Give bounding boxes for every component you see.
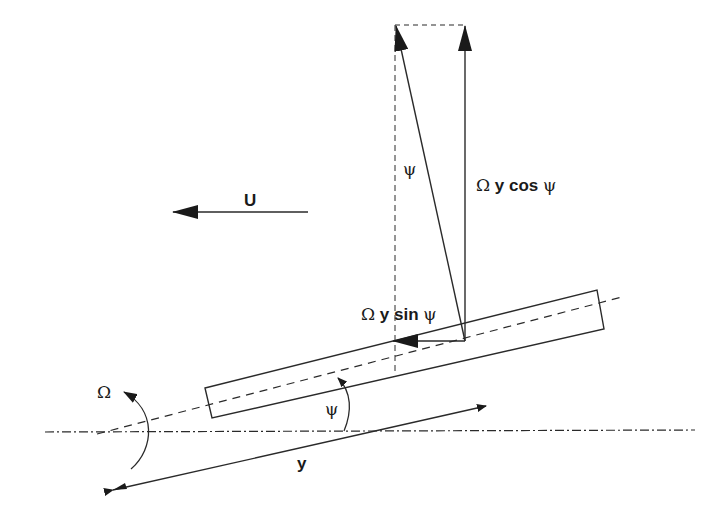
sin-component-label: Ω y sin ψ	[361, 304, 437, 324]
omega-rotation-arc	[124, 392, 149, 469]
psi-blade-label: ψ	[325, 399, 338, 419]
psi-angle-arc	[338, 378, 349, 431]
sin-text: y sin	[375, 305, 423, 324]
cos-component-label: Ω y cos ψ	[476, 175, 556, 195]
psi-vector-label: ψ	[403, 159, 416, 179]
omega-symbol: Ω	[361, 304, 375, 324]
psi-symbol: ψ	[543, 175, 556, 195]
radial-arrow	[113, 406, 486, 490]
psi-symbol: ψ	[423, 304, 436, 324]
radial-arrow-start-head	[113, 483, 127, 490]
blade-centerline	[97, 297, 622, 434]
blade-velocity-diagram: U ψ Ω y cos ψ Ω y sin ψ Ω ψ y	[0, 0, 728, 507]
radial-label: y	[297, 454, 307, 473]
omega-symbol: Ω	[476, 175, 490, 195]
cos-text: y cos	[490, 176, 543, 195]
resultant-arrow	[396, 26, 465, 341]
freestream-label: U	[244, 191, 256, 210]
omega-label: Ω	[97, 382, 111, 402]
